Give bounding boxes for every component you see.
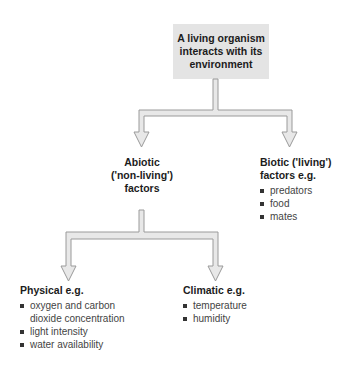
climatic-list: temperature humidity bbox=[183, 299, 273, 325]
top-split-arrow bbox=[134, 79, 297, 147]
climatic-heading: Climatic e.g. bbox=[183, 284, 273, 297]
abiotic-node: Abiotic ('non-living') factors bbox=[96, 156, 188, 195]
list-item: predators bbox=[260, 184, 339, 197]
list-item: water availability bbox=[20, 338, 140, 351]
list-item: oxygen and carbon dioxide concentration bbox=[20, 299, 140, 325]
biotic-line-2: factors e.g. bbox=[260, 169, 339, 182]
climatic-node: Climatic e.g. temperature humidity bbox=[183, 284, 273, 325]
physical-heading: Physical e.g. bbox=[20, 284, 140, 297]
list-item: light intensity bbox=[20, 325, 140, 338]
abiotic-line-2: ('non-living') bbox=[96, 169, 188, 182]
abiotic-line-3: factors bbox=[96, 182, 188, 195]
abiotic-line-1: Abiotic bbox=[96, 156, 188, 169]
biotic-list: predators food mates bbox=[260, 184, 339, 223]
physical-node: Physical e.g. oxygen and carbon dioxide … bbox=[20, 284, 140, 351]
list-item: food bbox=[260, 197, 339, 210]
list-item: temperature bbox=[183, 299, 273, 312]
biotic-node: Biotic ('living') factors e.g. predators… bbox=[260, 156, 339, 223]
physical-list: oxygen and carbon dioxide concentration … bbox=[20, 299, 140, 351]
biotic-line-1: Biotic ('living') bbox=[260, 156, 339, 169]
abiotic-split-arrow bbox=[61, 210, 223, 281]
list-item: mates bbox=[260, 210, 339, 223]
list-item: humidity bbox=[183, 312, 273, 325]
